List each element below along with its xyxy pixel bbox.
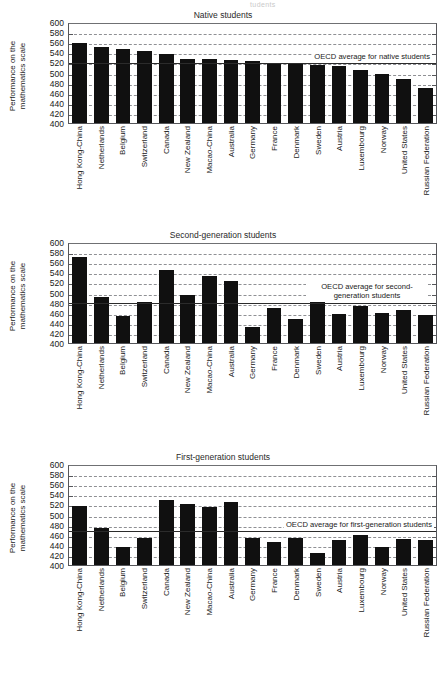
oecd-average-label: OECD average for first-generation studen…	[284, 520, 434, 529]
y-axis-title-line1: Performance on the	[8, 244, 18, 348]
bar-cell	[393, 24, 415, 123]
x-axis-label-cell: New Zealand	[177, 126, 199, 226]
bar-cell	[285, 466, 307, 565]
x-axis-label: France	[270, 126, 279, 151]
y-axis-tick-label: 400	[50, 562, 64, 571]
x-axis-label-cell: Macao-China	[198, 568, 220, 668]
bar-cell	[91, 24, 113, 123]
bar	[288, 319, 303, 343]
y-axis-tick-label: 440	[50, 542, 64, 551]
x-axis-label-cell: Hong Kong-China	[68, 568, 90, 668]
y-axis-tick-label: 460	[50, 89, 64, 98]
y-axis-tick-label: 520	[50, 59, 64, 68]
bar-cell	[69, 24, 91, 123]
y-axis-tick-label: 500	[50, 289, 64, 298]
bar	[375, 547, 390, 565]
x-axis-label: United States	[400, 346, 409, 394]
bar	[94, 528, 109, 565]
y-axis-tick-labels: 600580560540520500480460440420400	[34, 23, 64, 124]
bar-cell	[285, 244, 307, 343]
x-axis-label: Norway	[378, 126, 387, 153]
y-axis-tick-label: 460	[50, 531, 64, 540]
bar	[159, 500, 174, 565]
y-axis-title: Performance on themathematics scale	[8, 24, 28, 128]
bar	[72, 43, 87, 123]
bar-cell	[350, 24, 372, 123]
y-axis-tick-label: 420	[50, 552, 64, 561]
x-axis-label-cell: United States	[394, 126, 416, 226]
x-axis-label-cell: Netherlands	[90, 568, 112, 668]
plot-area: OECD average for first-generation studen…	[68, 465, 437, 566]
x-axis-label-cell: Canada	[155, 126, 177, 226]
x-axis-label-cell: Germany	[242, 346, 264, 446]
bar	[159, 270, 174, 343]
x-axis-label-cell: Germany	[242, 568, 264, 668]
bar	[418, 88, 433, 123]
y-axis-tick-label: 400	[50, 340, 64, 349]
chart-panel-native: Native studentsPerformance on themathema…	[0, 10, 446, 232]
x-axis-label-cell: New Zealand	[177, 568, 199, 668]
bar	[180, 504, 195, 565]
x-axis-label-cell: Norway	[372, 568, 394, 668]
y-axis-tick-label: 420	[50, 110, 64, 119]
x-axis-label: Macao-China	[205, 568, 214, 616]
bar	[288, 64, 303, 123]
y-axis-title-line2: mathematics scale	[18, 244, 28, 348]
y-axis-tick-label: 540	[50, 269, 64, 278]
x-axis-label: Russian Federation	[422, 568, 431, 637]
bar	[353, 535, 368, 565]
x-axis-label-cell: Australia	[220, 126, 242, 226]
y-axis-title-line2: mathematics scale	[18, 24, 28, 128]
chart-panel-second-generation: Second-generation studentsPerformance on…	[0, 230, 446, 452]
chart-panel-first-generation: First-generation studentsPerformance on …	[0, 452, 446, 674]
bar	[159, 54, 174, 123]
bar-cell	[69, 244, 91, 343]
x-axis-label-cell: Australia	[220, 346, 242, 446]
x-axis-label: France	[270, 568, 279, 593]
bar-cell	[220, 244, 242, 343]
y-axis-tick-label: 520	[50, 279, 64, 288]
x-axis-label-cell: Norway	[372, 346, 394, 446]
x-axis-label: Norway	[378, 346, 387, 373]
x-axis-label: United States	[400, 126, 409, 174]
x-axis-label-cell: Switzerland	[133, 126, 155, 226]
x-axis-labels: Hong Kong-ChinaNetherlandsBelgiumSwitzer…	[68, 126, 437, 226]
bar-cell	[307, 466, 329, 565]
x-axis-label-cell: France	[263, 126, 285, 226]
bar	[353, 70, 368, 123]
y-axis-tick-label: 600	[50, 239, 64, 248]
x-axis-label: Germany	[248, 346, 257, 379]
x-axis-label-cell: United States	[394, 346, 416, 446]
x-axis-label: Netherlands	[96, 568, 105, 611]
y-axis-title-line1: Performance on the	[8, 24, 18, 128]
bar-cell	[371, 24, 393, 123]
x-axis-label: Switzerland	[139, 346, 148, 387]
x-axis-label: Luxembourg	[356, 568, 365, 612]
bar	[116, 316, 131, 343]
bar	[332, 540, 347, 565]
bar-cell	[285, 24, 307, 123]
bar-cell	[263, 244, 285, 343]
bar	[116, 547, 131, 565]
x-axis-label-cell: New Zealand	[177, 346, 199, 446]
y-axis-title-line2: mathematics scale	[18, 466, 28, 570]
x-axis-label-cell: Macao-China	[198, 346, 220, 446]
x-axis-label: Hong Kong-China	[74, 568, 83, 632]
bar-cell	[242, 24, 264, 123]
bar	[353, 306, 368, 343]
x-axis-label: Australia	[226, 568, 235, 599]
bar-cell	[134, 24, 156, 123]
x-axis-label-cell: Canada	[155, 346, 177, 446]
x-axis-label: Belgium	[118, 346, 127, 375]
x-axis-label: Macao-China	[205, 126, 214, 174]
y-axis-tick-label: 540	[50, 49, 64, 58]
chart-title: Second-generation students	[0, 230, 446, 240]
bar-cell	[263, 466, 285, 565]
y-axis-tick-label: 600	[50, 461, 64, 470]
bar	[224, 281, 239, 343]
x-axis-label: Russian Federation	[422, 346, 431, 415]
y-axis-tick-label: 500	[50, 69, 64, 78]
x-axis-label-cell: Russian Federation	[415, 126, 437, 226]
bar-cell	[112, 244, 134, 343]
bar	[267, 308, 282, 343]
